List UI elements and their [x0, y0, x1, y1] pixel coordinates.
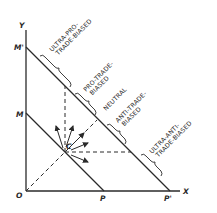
p-label: P — [100, 194, 106, 203]
ray-from-origin — [26, 120, 97, 191]
x-axis-label: X — [182, 187, 190, 196]
region-label-ultra-anti: ULTRA-ANTI- TRADE-BIASED — [148, 114, 193, 159]
region-label-ultra-pro: ULTRA-PRO- TRADE-BIASED — [48, 12, 93, 57]
m-label: M — [16, 110, 24, 119]
region-label-pro: PRO-TRADE- BIASED — [82, 60, 120, 98]
trade-bias-diagram: Y X O M' M P P' C ULTRA-PRO- TRADE-BIASE… — [0, 0, 217, 213]
direction-arrows — [56, 126, 88, 162]
m-prime-label: M' — [14, 43, 24, 52]
c-label: C — [66, 142, 72, 151]
p-prime-label: P' — [164, 194, 172, 203]
origin-label: O — [16, 191, 23, 200]
y-axis-label: Y — [19, 21, 26, 30]
